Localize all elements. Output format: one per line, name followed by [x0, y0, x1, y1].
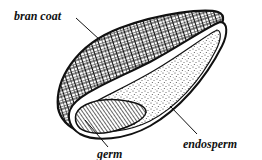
- endosperm-label: endosperm: [183, 138, 237, 150]
- germ-label: germ: [97, 148, 122, 160]
- bran-coat-label: bran coat: [14, 10, 61, 22]
- grain-kernel-diagram: bran coat germ endosperm: [0, 0, 262, 160]
- kernel-illustration: [0, 0, 262, 160]
- endosperm-leader-line: [170, 106, 197, 134]
- bran-coat-leader-line: [76, 18, 100, 40]
